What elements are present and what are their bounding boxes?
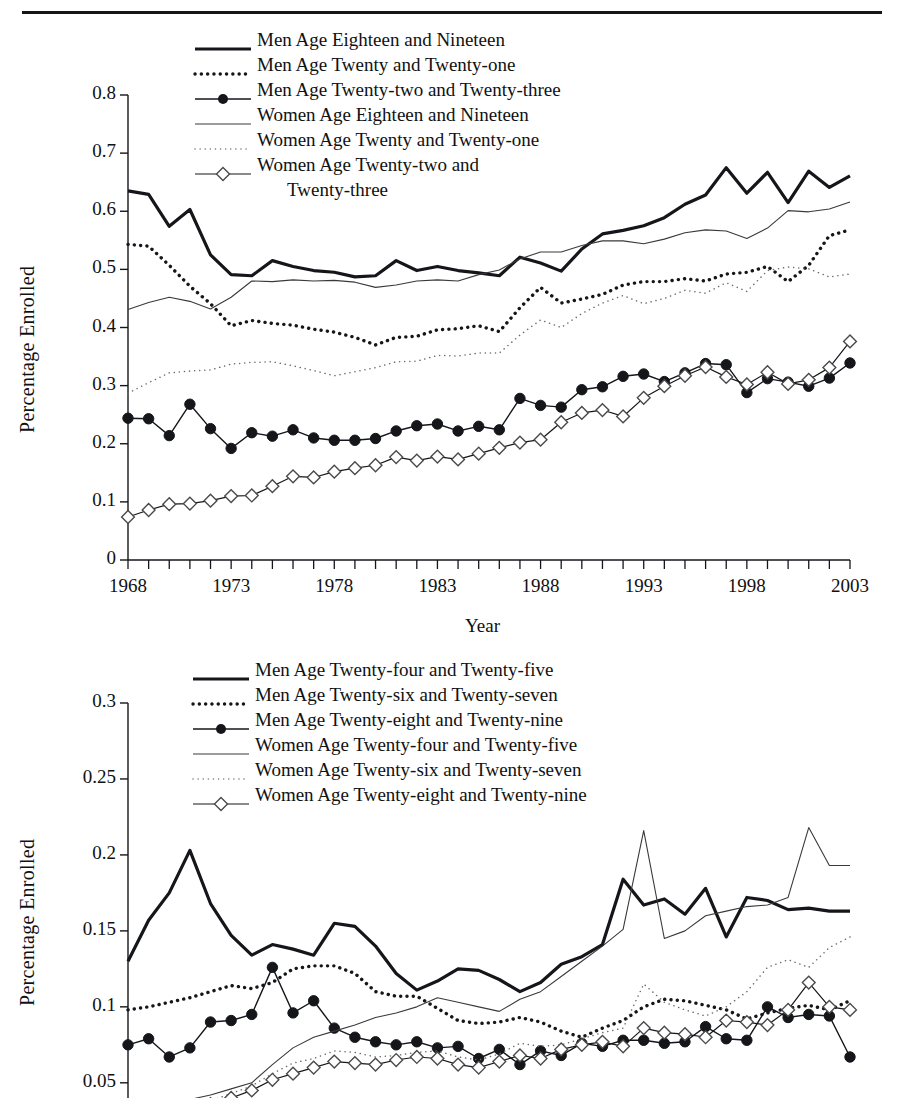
data-point-diamond <box>163 498 176 511</box>
y-axis-title: Percentage Enrolled <box>16 265 39 432</box>
y-axis-tick-label: 0.1 <box>52 489 116 511</box>
data-point-circle <box>494 425 504 435</box>
data-point-diamond <box>514 1049 527 1062</box>
legend-label-continuation: Twenty-three <box>287 179 388 201</box>
legend-swatch-thick-dotted-icon <box>193 696 249 698</box>
data-point-circle <box>164 1052 174 1062</box>
data-point-diamond <box>596 404 609 417</box>
header-rule <box>22 11 882 14</box>
data-point-diamond <box>328 465 341 478</box>
data-point-circle <box>226 1015 236 1025</box>
data-point-circle <box>143 1034 153 1044</box>
data-point-diamond <box>266 480 279 493</box>
data-point-circle <box>288 1008 298 1018</box>
data-point-circle <box>123 1040 133 1050</box>
data-point-circle <box>494 1044 504 1054</box>
data-point-circle <box>432 419 442 429</box>
legend-label: Women Age Twenty-two and <box>257 154 479 176</box>
data-point-diamond <box>514 436 527 449</box>
data-point-diamond <box>699 1031 712 1044</box>
data-point-diamond <box>225 490 238 503</box>
data-point-diamond <box>658 1026 671 1039</box>
y-axis-tick-label: 0.7 <box>52 140 116 162</box>
x-axis-tick-label: 1988 <box>501 575 581 597</box>
legend-label: Men Age Eighteen and Nineteen <box>257 29 505 51</box>
data-point-circle <box>453 1041 463 1051</box>
figure-page: Men Age Eighteen and NineteenMen Age Twe… <box>0 0 902 1098</box>
x-axis-tick-label: 1973 <box>191 575 271 597</box>
y-axis-tick-label: 0.25 <box>52 766 116 788</box>
data-point-diamond <box>307 1061 320 1074</box>
series-line <box>128 202 850 310</box>
x-axis-tick-label: 1968 <box>88 575 168 597</box>
data-point-circle <box>329 435 339 445</box>
data-point-diamond <box>452 453 465 466</box>
data-point-circle <box>288 425 298 435</box>
chart-bottom: Men Age Twenty-four and Twenty-fiveMen A… <box>0 648 902 1098</box>
data-point-circle <box>556 402 566 412</box>
y-axis-tick-label: 0.15 <box>52 918 116 940</box>
data-point-circle <box>267 962 277 972</box>
data-point-diamond <box>844 335 857 348</box>
data-point-diamond <box>287 1067 300 1080</box>
x-axis-tick-label: 2003 <box>810 575 890 597</box>
data-point-circle <box>412 421 422 431</box>
data-point-circle <box>143 414 153 424</box>
data-point-circle <box>350 1032 360 1042</box>
chart-top: Men Age Eighteen and NineteenMen Age Twe… <box>0 22 902 642</box>
legend-label: Women Age Twenty-four and Twenty-five <box>255 734 577 756</box>
data-point-circle <box>535 400 545 410</box>
data-point-circle <box>639 369 649 379</box>
data-point-diamond <box>493 441 506 454</box>
data-point-circle <box>639 1035 649 1045</box>
data-point-diamond <box>245 489 258 502</box>
data-point-circle <box>845 1052 855 1062</box>
data-point-circle <box>308 433 318 443</box>
data-point-circle <box>515 393 525 403</box>
data-point-circle <box>742 1035 752 1045</box>
data-point-diamond <box>410 454 423 467</box>
data-point-diamond <box>431 450 444 463</box>
series-line <box>128 967 850 1064</box>
legend-label: Women Age Eighteen and Nineteen <box>257 104 529 126</box>
data-point-circle <box>308 996 318 1006</box>
data-point-circle <box>247 1009 257 1019</box>
x-axis-title: Year <box>465 615 500 637</box>
data-point-circle <box>453 426 463 436</box>
data-point-circle <box>185 1043 195 1053</box>
series-line <box>128 168 850 277</box>
y-axis-tick-label: 0.6 <box>52 198 116 220</box>
data-point-diamond <box>307 471 320 484</box>
data-point-circle <box>721 360 731 370</box>
data-point-circle <box>123 413 133 423</box>
legend-label: Men Age Twenty and Twenty-one <box>257 54 515 76</box>
data-point-diamond <box>472 1061 485 1074</box>
data-point-diamond <box>266 1073 279 1086</box>
data-point-circle <box>597 382 607 392</box>
y-axis-tick-label: 0.8 <box>52 82 116 104</box>
data-point-diamond <box>349 1057 362 1070</box>
y-axis-title: Percentage Enrolled <box>16 838 39 1005</box>
y-axis-tick-label: 0.4 <box>52 315 116 337</box>
legend-swatch-diamond-marker-icon <box>195 166 251 168</box>
data-point-diamond <box>720 371 733 384</box>
data-point-diamond <box>431 1052 444 1065</box>
data-point-diamond <box>390 451 403 464</box>
y-axis-tick-label: 0.3 <box>52 690 116 712</box>
data-point-diamond <box>493 1055 506 1068</box>
legend-label: Men Age Twenty-two and Twenty-three <box>257 79 561 101</box>
x-axis-tick-label: 1993 <box>604 575 684 597</box>
data-point-diamond <box>142 504 155 517</box>
legend-label: Women Age Twenty and Twenty-one <box>257 129 539 151</box>
x-axis-tick-label: 1998 <box>707 575 787 597</box>
data-point-diamond <box>575 407 588 420</box>
data-point-circle <box>226 443 236 453</box>
data-point-circle <box>804 1009 814 1019</box>
legend-label: Men Age Twenty-eight and Twenty-nine <box>255 709 563 731</box>
data-point-diamond <box>369 1058 382 1071</box>
data-point-circle <box>412 1037 422 1047</box>
data-point-diamond <box>122 511 135 524</box>
data-point-circle <box>205 1017 215 1027</box>
x-axis-tick-label: 1983 <box>397 575 477 597</box>
series-line <box>128 230 850 345</box>
